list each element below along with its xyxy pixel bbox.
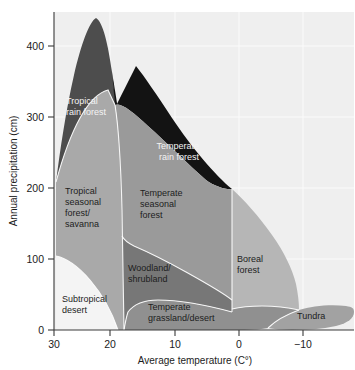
label-temperate-rain-forest-line-1: rain forest: [159, 152, 200, 162]
x-axis-title: Average temperature (C°): [138, 355, 252, 366]
label-subtropical-desert-line-0: Subtropical: [62, 294, 107, 304]
whittaker-biome-chart: 400 300 200 100 0 30 20 10 0 −10 Average…: [0, 0, 355, 370]
label-temperate-rain-forest: Temperate rain forest: [156, 141, 199, 162]
y-axis-ticks: [48, 46, 54, 330]
x-tick-label-20: 20: [104, 338, 116, 350]
label-tropical-seasonal-line-0: Tropical: [65, 186, 97, 196]
label-tropical-rain-forest-line-0: Tropical: [66, 96, 98, 106]
label-woodland-shrubland-line-1: shrubland: [128, 274, 168, 284]
y-tick-label-400: 400: [26, 40, 44, 52]
label-temperate-seasonal-line-0: Temperate: [140, 188, 183, 198]
label-temperate-rain-forest-line-0: Temperate: [156, 141, 199, 151]
label-temperate-seasonal-line-2: forest: [140, 210, 163, 220]
x-tick-label-30: 30: [48, 338, 60, 350]
label-tropical-seasonal-line-3: savanna: [65, 219, 99, 229]
x-tick-label-10: 10: [169, 338, 181, 350]
chart-canvas: 400 300 200 100 0 30 20 10 0 −10 Average…: [0, 0, 355, 370]
label-woodland-shrubland: Woodland/ shrubland: [128, 263, 171, 284]
y-tick-label-100: 100: [26, 253, 44, 265]
label-subtropical-desert-line-1: desert: [62, 305, 88, 315]
y-axis-title: Annual precipitation (cm): [8, 116, 19, 227]
label-boreal-forest-line-0: Boreal: [237, 254, 263, 264]
y-tick-label-0: 0: [38, 324, 44, 336]
x-axis-ticks: [54, 330, 303, 336]
x-tick-label-minus10: −10: [294, 338, 312, 350]
label-tundra-line-0: Tundra: [297, 311, 325, 321]
label-boreal-forest: Boreal forest: [237, 254, 263, 275]
label-tropical-seasonal-line-1: seasonal: [65, 197, 101, 207]
label-tropical-rain-forest-line-1: rain forest: [66, 107, 107, 117]
y-tick-label-300: 300: [26, 111, 44, 123]
label-temperate-grassland-line-0: Temperate: [148, 302, 191, 312]
label-boreal-forest-line-1: forest: [237, 265, 260, 275]
label-woodland-shrubland-line-0: Woodland/: [128, 263, 171, 273]
label-tundra: Tundra: [297, 311, 325, 321]
y-tick-label-200: 200: [26, 182, 44, 194]
label-temperate-grassland-line-1: grassland/desert: [148, 313, 215, 323]
x-tick-label-0: 0: [236, 338, 242, 350]
label-temperate-seasonal-line-1: seasonal: [140, 199, 176, 209]
label-tropical-seasonal-line-2: forest/: [65, 208, 91, 218]
